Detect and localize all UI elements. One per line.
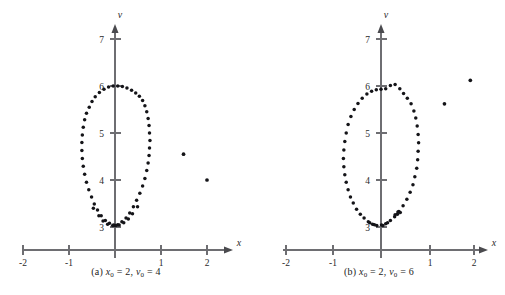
data-point bbox=[92, 206, 96, 210]
data-point bbox=[138, 191, 142, 195]
y-ticklabel-4-a: 4 bbox=[99, 176, 104, 186]
caption-a-sub1: 0 bbox=[110, 271, 114, 279]
data-point bbox=[349, 195, 353, 199]
outlier-point bbox=[182, 152, 186, 156]
data-point bbox=[368, 221, 372, 225]
y-ticklabel-3-a: 3 bbox=[99, 223, 104, 233]
data-point bbox=[85, 181, 89, 185]
data-point bbox=[379, 88, 383, 92]
data-point bbox=[415, 167, 419, 171]
data-point bbox=[85, 112, 89, 116]
data-point bbox=[80, 149, 84, 153]
data-point bbox=[93, 95, 97, 99]
data-point bbox=[393, 213, 397, 217]
data-point bbox=[416, 158, 420, 162]
data-point bbox=[101, 219, 105, 223]
outlier-point bbox=[205, 178, 209, 182]
data-point bbox=[342, 148, 346, 152]
data-point bbox=[82, 165, 86, 169]
data-point bbox=[411, 183, 415, 187]
data-point bbox=[402, 92, 406, 96]
outlier-points-a bbox=[182, 152, 209, 182]
data-point bbox=[148, 146, 152, 150]
y-ticklabel-6-b: 6 bbox=[365, 82, 370, 92]
y-axis-arrow-b bbox=[378, 24, 385, 33]
x-axis-label-a: x bbox=[236, 237, 242, 248]
data-point bbox=[147, 154, 151, 158]
data-point bbox=[408, 190, 412, 194]
caption-b-eq2: = 6 bbox=[400, 266, 414, 277]
data-point bbox=[386, 221, 390, 225]
x-axis-label-b: x bbox=[491, 237, 497, 248]
data-points-a bbox=[80, 84, 152, 227]
y-ticklabel-4-b: 4 bbox=[365, 176, 370, 186]
data-point bbox=[373, 223, 377, 227]
data-point bbox=[143, 104, 147, 108]
data-point bbox=[121, 85, 125, 89]
scatter-plot-a: -2 -1 1 2 3 4 5 6 7 x v bbox=[0, 0, 252, 268]
data-point bbox=[352, 108, 356, 112]
data-point bbox=[401, 204, 405, 208]
outlier-point bbox=[443, 102, 447, 106]
data-point bbox=[352, 201, 356, 205]
data-point bbox=[146, 161, 150, 165]
caption-a-eq2: = 4 bbox=[147, 266, 161, 277]
data-point bbox=[132, 205, 136, 209]
data-point bbox=[344, 131, 348, 135]
data-point bbox=[344, 181, 348, 185]
data-point bbox=[356, 102, 360, 106]
data-point bbox=[117, 223, 121, 227]
data-point bbox=[135, 198, 139, 202]
data-point bbox=[396, 210, 400, 214]
data-point bbox=[406, 96, 410, 100]
x-axis-arrow-a bbox=[224, 247, 233, 254]
caption-a-eq1: = 2, bbox=[117, 266, 133, 277]
y-axis-label-b: v bbox=[384, 9, 389, 20]
outlier-points-b bbox=[443, 79, 473, 106]
data-point bbox=[145, 110, 149, 114]
figure-container: -2 -1 1 2 3 4 5 6 7 x v (a) x0 = 2, v0 = bbox=[0, 0, 505, 295]
data-point bbox=[111, 84, 115, 88]
y-ticklabel-5-b: 5 bbox=[365, 129, 370, 139]
y-axis-label-a: v bbox=[118, 9, 123, 20]
data-point bbox=[81, 133, 85, 137]
data-point bbox=[82, 126, 86, 130]
data-point bbox=[141, 184, 145, 188]
caption-a-sub2: 0 bbox=[141, 271, 145, 279]
data-point bbox=[107, 85, 111, 89]
data-point bbox=[370, 89, 374, 93]
data-point bbox=[412, 109, 416, 113]
data-point bbox=[143, 177, 147, 181]
data-point bbox=[417, 141, 421, 145]
data-point bbox=[405, 198, 409, 202]
data-point bbox=[389, 219, 393, 223]
data-point bbox=[346, 123, 350, 127]
data-point bbox=[375, 88, 379, 92]
data-point bbox=[398, 87, 402, 91]
data-point bbox=[148, 131, 152, 135]
data-point bbox=[362, 216, 366, 220]
data-point bbox=[131, 212, 135, 216]
data-point bbox=[346, 188, 350, 192]
data-point bbox=[145, 169, 149, 173]
caption-b: (b) x0 = 2, v0 = 6 bbox=[253, 266, 505, 279]
data-point bbox=[381, 224, 385, 228]
data-point bbox=[415, 124, 419, 128]
caption-a: (a) x0 = 2, v0 = 4 bbox=[0, 266, 252, 279]
data-point bbox=[96, 208, 100, 212]
data-point bbox=[127, 217, 131, 221]
data-point bbox=[393, 83, 397, 87]
data-point bbox=[349, 115, 353, 119]
data-point bbox=[343, 140, 347, 144]
data-point bbox=[342, 157, 346, 161]
data-point bbox=[114, 224, 118, 228]
data-point bbox=[355, 207, 359, 211]
tick-labels-a: -2 -1 1 2 3 4 5 6 7 bbox=[19, 35, 210, 268]
data-point bbox=[359, 213, 363, 217]
data-point bbox=[87, 188, 91, 192]
data-point bbox=[414, 116, 418, 120]
data-point bbox=[146, 117, 150, 121]
data-point bbox=[148, 139, 152, 143]
data-point bbox=[416, 150, 420, 154]
data-point bbox=[138, 95, 142, 99]
